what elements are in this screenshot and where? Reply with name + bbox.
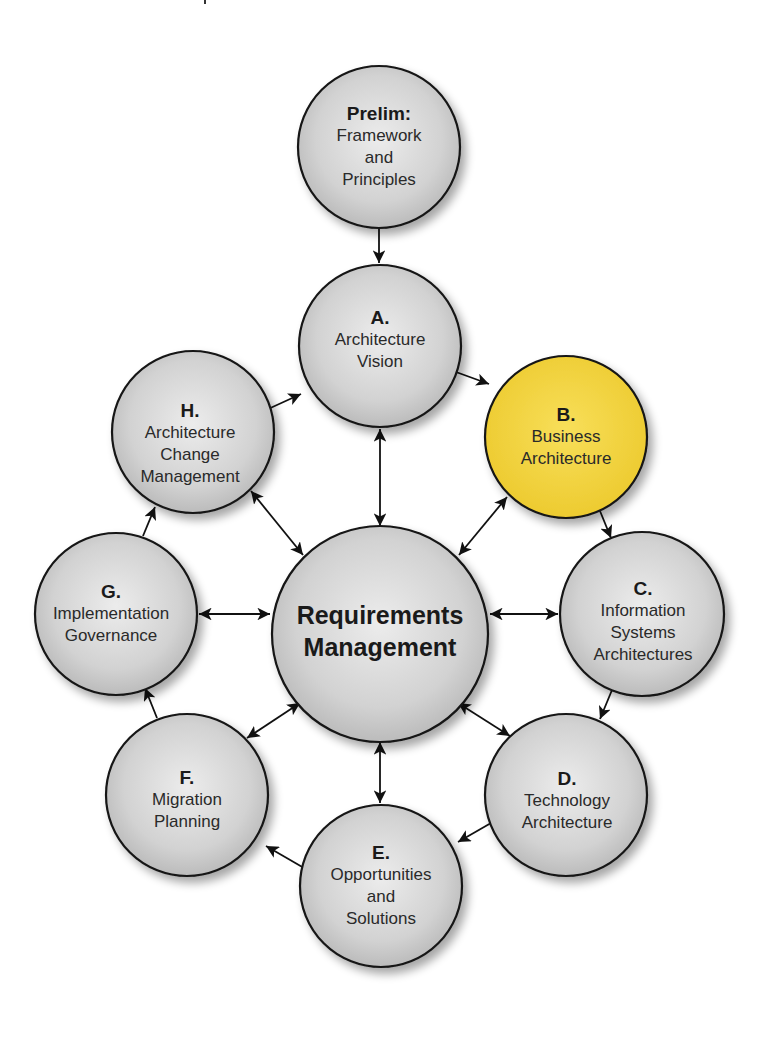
node-d[interactable] — [485, 714, 647, 876]
edge-g-to-h — [143, 507, 155, 536]
edge-req-f — [247, 703, 300, 738]
edge-req-b — [459, 497, 507, 555]
node-requirements[interactable] — [272, 526, 488, 742]
edge-d-to-e — [458, 823, 491, 842]
node-b[interactable] — [485, 356, 647, 518]
edge-a-to-b — [456, 372, 489, 384]
edge-e-to-f — [266, 846, 304, 868]
node-g[interactable] — [35, 533, 197, 695]
edge-b-to-c — [600, 511, 611, 538]
node-prelim[interactable] — [298, 66, 460, 228]
edge-req-d — [458, 703, 510, 736]
node-c[interactable] — [560, 532, 724, 696]
node-h[interactable] — [112, 351, 274, 513]
edge-req-h — [251, 491, 303, 555]
edge-c-to-d — [600, 690, 612, 719]
node-a[interactable] — [299, 265, 461, 427]
adm-cycle-diagram — [0, 0, 761, 1043]
node-e[interactable] — [300, 805, 462, 967]
node-f[interactable] — [106, 714, 268, 876]
edge-f-to-g — [145, 688, 157, 718]
